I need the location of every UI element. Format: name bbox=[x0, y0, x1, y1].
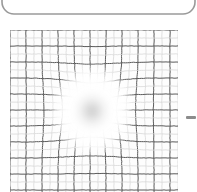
amsler-grid-canvas bbox=[0, 0, 197, 192]
right-edge-dash bbox=[186, 116, 196, 119]
grid-line-horizontal bbox=[10, 182, 178, 183]
grid-line-vertical bbox=[26, 30, 27, 192]
grid-line-horizontal bbox=[10, 173, 178, 174]
scotoma-core-smudge bbox=[73, 91, 111, 131]
amsler-grid-figure bbox=[0, 0, 197, 192]
